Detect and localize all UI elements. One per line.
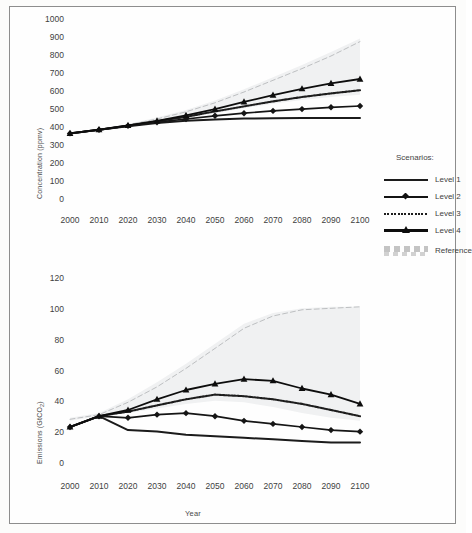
x-tick-label: 2010 bbox=[84, 481, 114, 491]
data-point-marker bbox=[183, 410, 189, 416]
y-tick-label: 1000 bbox=[30, 14, 64, 24]
level-1-line-swatch-icon bbox=[384, 174, 428, 185]
x-tick-label: 2060 bbox=[229, 215, 259, 225]
concentration-plot-area bbox=[70, 20, 360, 200]
legend-item-reference[interactable]: Reference bbox=[384, 239, 472, 261]
data-point-marker bbox=[241, 418, 247, 424]
y-tick-label: 0 bbox=[30, 458, 64, 468]
x-tick-label: 2010 bbox=[84, 215, 114, 225]
x-tick-label: 2050 bbox=[200, 215, 230, 225]
x-tick-label: 2020 bbox=[113, 481, 143, 491]
x-tick-label: 2090 bbox=[316, 215, 346, 225]
legend-item-level-1[interactable]: Level 1 bbox=[384, 171, 472, 188]
x-tick-label: 2100 bbox=[345, 481, 375, 491]
data-point-marker bbox=[212, 413, 218, 419]
y-tick-label: 40 bbox=[30, 396, 64, 406]
concentration-chart: Concentration (ppmv) 1000900800700600500… bbox=[10, 7, 370, 257]
y-tick-label: 600 bbox=[30, 86, 64, 96]
x-axis-label: Year bbox=[185, 509, 201, 518]
level-3-line-swatch-icon bbox=[384, 208, 428, 219]
data-point-marker bbox=[357, 428, 363, 434]
legend-label-level-2: Level 2 bbox=[435, 192, 461, 201]
y-tick-label: 500 bbox=[30, 104, 64, 114]
x-tick-label: 2060 bbox=[229, 481, 259, 491]
emissions-plot-area bbox=[70, 279, 360, 464]
y-tick-label: 400 bbox=[30, 122, 64, 132]
y-tick-label: 800 bbox=[30, 50, 64, 60]
legend-item-level-3[interactable]: Level 3 bbox=[384, 205, 472, 222]
x-tick-label: 2070 bbox=[258, 215, 288, 225]
y-tick-label: 0 bbox=[30, 194, 64, 204]
data-point-marker bbox=[328, 427, 334, 433]
x-tick-label: 2080 bbox=[287, 215, 317, 225]
x-tick-label: 2030 bbox=[142, 481, 172, 491]
x-tick-label: 2000 bbox=[55, 481, 85, 491]
y-tick-label: 700 bbox=[30, 68, 64, 78]
legend-label-level-4: Level 4 bbox=[435, 226, 461, 235]
reference-band bbox=[70, 307, 360, 421]
legend-label-level-1: Level 1 bbox=[435, 175, 461, 184]
y-tick-label: 60 bbox=[30, 366, 64, 376]
data-point-marker bbox=[154, 411, 160, 417]
level-1-line bbox=[70, 118, 360, 133]
emissions-chart: Emissions (GtCO2) 120100806040200 200020… bbox=[10, 259, 370, 525]
x-tick-label: 2020 bbox=[113, 215, 143, 225]
legend-label-level-3: Level 3 bbox=[435, 209, 461, 218]
y-tick-label: 120 bbox=[30, 273, 64, 283]
legend: Scenarios: Level 1 Level 2 Level 3 bbox=[384, 153, 472, 261]
level-2-line-swatch-icon bbox=[384, 191, 428, 202]
data-point-marker bbox=[241, 110, 247, 116]
y-tick-label: 100 bbox=[30, 304, 64, 314]
data-point-marker bbox=[125, 415, 131, 421]
y-tick-label: 20 bbox=[30, 427, 64, 437]
x-tick-label: 2030 bbox=[142, 215, 172, 225]
y-tick-label: 300 bbox=[30, 140, 64, 150]
legend-item-level-4[interactable]: Level 4 bbox=[384, 222, 472, 239]
y-tick-label: 200 bbox=[30, 158, 64, 168]
reference-band-swatch-icon bbox=[384, 243, 428, 258]
x-tick-label: 2070 bbox=[258, 481, 288, 491]
legend-label-reference: Reference bbox=[435, 246, 472, 255]
data-point-marker bbox=[357, 103, 363, 109]
x-tick-label: 2040 bbox=[171, 215, 201, 225]
x-tick-label: 2100 bbox=[345, 215, 375, 225]
data-point-marker bbox=[270, 108, 276, 114]
y-tick-label: 80 bbox=[30, 335, 64, 345]
data-point-marker bbox=[328, 104, 334, 110]
figure-frame: Concentration (ppmv) 1000900800700600500… bbox=[9, 6, 456, 524]
x-tick-label: 2000 bbox=[55, 215, 85, 225]
data-point-marker bbox=[299, 106, 305, 112]
x-tick-label: 2090 bbox=[316, 481, 346, 491]
level-4-line-swatch-icon bbox=[384, 225, 428, 236]
data-point-marker bbox=[299, 424, 305, 430]
x-tick-label: 2080 bbox=[287, 481, 317, 491]
y-tick-label: 900 bbox=[30, 32, 64, 42]
x-tick-label: 2040 bbox=[171, 481, 201, 491]
data-point-marker bbox=[270, 421, 276, 427]
legend-title: Scenarios: bbox=[396, 153, 472, 162]
y-tick-label: 100 bbox=[30, 176, 64, 186]
x-tick-label: 2050 bbox=[200, 481, 230, 491]
legend-item-level-2[interactable]: Level 2 bbox=[384, 188, 472, 205]
